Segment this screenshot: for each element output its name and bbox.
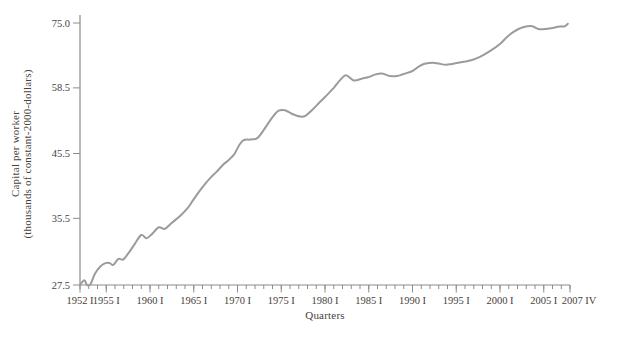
capital-per-worker-chart: 27.535.545.558.575.0 1952 I1955 I1960 I1… (0, 0, 628, 337)
x-tick-label: 1970 I (224, 295, 252, 306)
y-axis-title-line1: Capital per worker (9, 111, 21, 197)
capital-per-worker-figure: 27.535.545.558.575.0 1952 I1955 I1960 I1… (0, 0, 628, 337)
y-tick-label: 58.5 (52, 82, 70, 93)
y-tick-label: 75.0 (52, 18, 70, 29)
x-tick-label: 1975 I (268, 295, 296, 306)
x-axis: 1952 I1955 I1960 I1965 I1970 I1975 I1980… (66, 285, 596, 306)
y-tick-label: 35.5 (52, 213, 70, 224)
x-tick-label: 2000 I (486, 295, 514, 306)
y-axis-title-line2: (thousands of constant-2000-dollars) (21, 69, 34, 238)
x-tick-label: 1990 I (399, 295, 427, 306)
x-tick-label: 1960 I (136, 295, 164, 306)
x-tick-label: 2007 IV (562, 295, 597, 306)
y-tick-label: 27.5 (52, 280, 70, 291)
x-tick-label: 1995 I (443, 295, 471, 306)
x-axis-title: Quarters (305, 309, 344, 321)
x-tick-label: 1952 I (66, 295, 94, 306)
x-tick-label: 2005 I (530, 295, 558, 306)
x-tick-label: 1985 I (355, 295, 383, 306)
x-tick-label: 1965 I (180, 295, 208, 306)
y-tick-label: 45.5 (52, 148, 70, 159)
x-tick-label: 1980 I (311, 295, 339, 306)
y-axis: 27.535.545.558.575.0 (52, 18, 80, 291)
capital-per-worker-line (80, 24, 568, 286)
x-tick-label: 1955 I (93, 295, 121, 306)
axes-spines (80, 15, 570, 285)
